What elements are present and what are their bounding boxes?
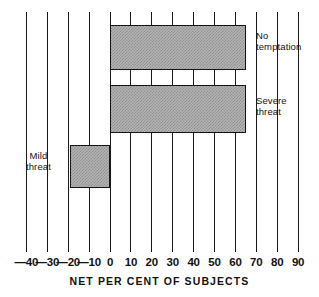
tick-label-40: 40 (187, 256, 199, 268)
tick-label-10: 10 (125, 256, 137, 268)
tick-label-70: 70 (250, 256, 262, 268)
bar-severe-threat (110, 85, 246, 133)
bar-chart: No temptationSevere threatMild threat —4… (0, 0, 319, 297)
tick-label-80: 80 (271, 256, 283, 268)
tick-label-20: 20 (146, 256, 158, 268)
plot-area: No temptationSevere threatMild threat (0, 0, 319, 297)
tick-label-30: 30 (166, 256, 178, 268)
tick-label-0: 0 (107, 256, 113, 268)
series-label-severe-threat: Severe threat (256, 95, 287, 117)
series-label-no-temptation: No temptation (256, 30, 301, 52)
tick-label-90: 90 (292, 256, 304, 268)
series-label-mild-threat: Mild threat (26, 150, 51, 172)
tick-label-50: 50 (208, 256, 220, 268)
tick-label--10: —10 (77, 256, 101, 268)
gridline--40 (26, 12, 27, 252)
gridline--20 (68, 12, 69, 252)
tick-label-60: 60 (229, 256, 241, 268)
x-axis-title: NET PER CENT OF SUBJECTS (0, 275, 319, 287)
bar-no-temptation (110, 25, 246, 70)
bar-mild-threat (70, 145, 110, 188)
gridline--10 (89, 12, 90, 252)
x-axis-tick-labels: —40—30—20—100102030405060708090 (0, 256, 319, 272)
gridline--30 (47, 12, 48, 252)
